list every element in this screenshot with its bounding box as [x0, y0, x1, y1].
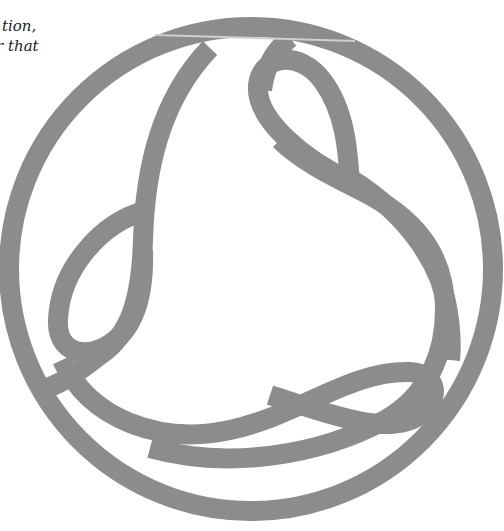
knot-emblem-icon: [0, 0, 504, 531]
